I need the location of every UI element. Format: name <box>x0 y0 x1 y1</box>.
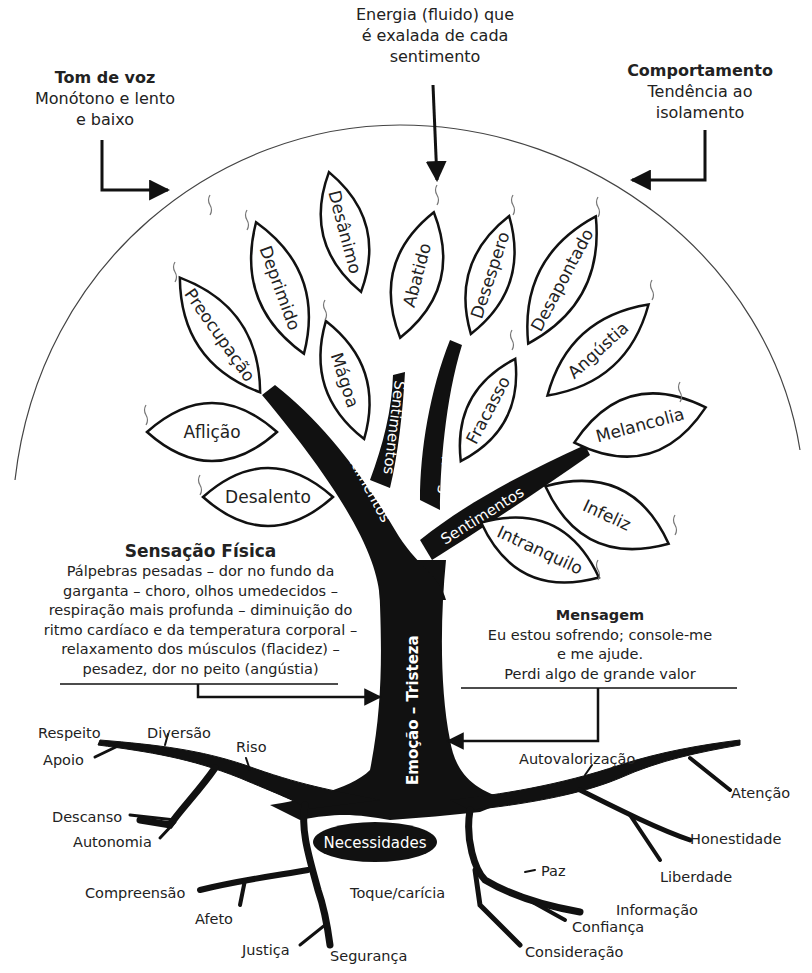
need-autovalorizacao: Autovalorização <box>519 751 635 767</box>
leaf-desanimo: Desânimo <box>308 166 383 297</box>
tone-title: Tom de voz <box>0 67 210 88</box>
leaf-desalento: Desalento <box>203 468 333 526</box>
svg-text:Aflição: Aflição <box>183 422 240 442</box>
need-honestidade: Honestidade <box>690 831 781 847</box>
tone-line-1: Monótono e lento <box>0 88 210 109</box>
need-liberdade: Liberdade <box>660 869 732 885</box>
need-compreensao: Compreensão <box>85 885 185 901</box>
needs-label: Necessidades <box>323 834 426 852</box>
sensation-line-5: relaxamento dos músculos (flacidez) – <box>28 640 373 660</box>
need-descanso: Descanso <box>52 809 122 825</box>
branch-label-small: Sentimentos <box>379 380 408 476</box>
need-seguranca: Segurança <box>330 948 407 964</box>
need-apoio: Apoio <box>43 752 84 768</box>
energy-arrow <box>433 85 437 180</box>
leaf-melancolia: Melancolia <box>567 378 714 471</box>
need-afeto: Afeto <box>195 911 233 927</box>
behavior-title: Comportamento <box>590 60 810 81</box>
svg-text:Desalento: Desalento <box>225 487 311 507</box>
tone-line-2: e baixo <box>0 109 210 130</box>
need-diversao: Diversão <box>147 725 211 741</box>
need-toque-caricia: Toque/carícia <box>349 885 445 901</box>
sensation-line-6: pesadez, dor no peito (angústia) <box>28 660 373 680</box>
need-paz: Paz <box>541 863 566 879</box>
sensation-line-1: Pálpebras pesadas – dor no fundo da <box>28 562 373 582</box>
energy-line-3: sentimento <box>300 46 570 67</box>
tone-arrow <box>102 140 168 190</box>
behavior-line-2: isolamento <box>590 102 810 123</box>
need-confianca: Confiança <box>572 919 644 935</box>
need-consideracao: Consideração <box>525 944 624 960</box>
need-autonomia: Autonomia <box>73 834 152 850</box>
energy-line-2: é exalada de cada <box>300 25 570 46</box>
trunk-label: Emoção – Tristeza <box>404 635 422 785</box>
need-riso: Riso <box>236 739 267 755</box>
behavior-arrow <box>632 130 705 180</box>
leaf-aflicao: Aflição <box>147 403 277 461</box>
message-line-3: Perdi algo de grande valor <box>460 665 740 685</box>
sensation-line-4: ritmo cardíaco e da temperatura corporal… <box>28 621 373 641</box>
tone-annotation: Tom de voz Monótono e lento e baixo <box>0 67 210 130</box>
message-annotation: Mensagem Eu estou sofrendo; console-me e… <box>460 606 740 684</box>
message-line-1: Eu estou sofrendo; console-me <box>460 626 740 646</box>
energy-line-1: Energia (fluido) que <box>300 4 570 25</box>
sensation-annotation: Sensação Física Pálpebras pesadas – dor … <box>28 540 373 679</box>
behavior-line-1: Tendência ao <box>590 81 810 102</box>
behavior-annotation: Comportamento Tendência ao isolamento <box>590 60 810 123</box>
message-line-2: e me ajude. <box>460 645 740 665</box>
message-arrow <box>448 688 598 741</box>
need-justica: Justiça <box>241 942 290 958</box>
sensation-line-2: garganta – choro, olhos umedecidos – <box>28 582 373 602</box>
sensation-arrow <box>198 684 380 697</box>
sensation-title: Sensação Física <box>28 540 373 562</box>
leaf-desespero: Desespero <box>451 210 529 341</box>
tree-diagram: Sentimentos Sentimentos Sentimentos Sent… <box>0 0 812 973</box>
sensation-line-3: respiração mais profunda – diminuição do <box>28 601 373 621</box>
energy-annotation: Energia (fluido) que é exalada de cada s… <box>300 4 570 67</box>
message-title: Mensagem <box>460 606 740 626</box>
leaf-abatido: Abatido <box>377 206 457 344</box>
need-atencao: Atenção <box>731 785 790 801</box>
need-informacao: Informação <box>616 902 698 918</box>
need-respeito: Respeito <box>38 725 101 741</box>
